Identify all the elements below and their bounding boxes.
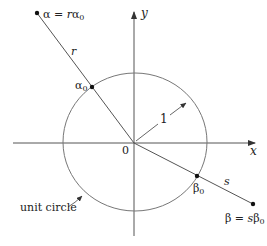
beta-label: β = sβ0 (225, 212, 265, 226)
beta0-label: β0 (193, 182, 204, 196)
s-segment-label: s (224, 175, 230, 188)
alpha-label: α = rα0 (43, 8, 84, 22)
radius-label: 1 (160, 112, 168, 126)
radius-line-upper (170, 103, 186, 115)
r-segment-label: r (71, 45, 77, 58)
y-axis-label: y (140, 6, 148, 20)
ray-alpha (37, 13, 134, 143)
radius-line-lower (136, 124, 158, 141)
x-axis-label: x (250, 144, 257, 158)
unit-circle-label: unit circle (20, 201, 77, 214)
point-beta0 (195, 174, 199, 178)
unit-circle (63, 73, 207, 211)
alpha0-label: α0 (75, 79, 88, 93)
diagram-canvas: y x 0 α = rα0 r α0 1 unit circle β0 s β … (0, 0, 267, 246)
origin-label: 0 (122, 144, 129, 157)
point-beta (251, 202, 255, 206)
point-alpha (35, 11, 39, 15)
point-alpha0 (90, 85, 94, 89)
